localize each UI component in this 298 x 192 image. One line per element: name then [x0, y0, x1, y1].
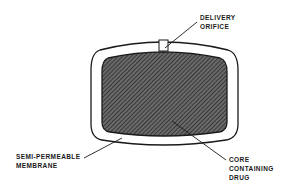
label-line: ORIFICE: [200, 22, 235, 31]
semi-permeable-membrane-label: SEMI-PERMEABLE MEMBRANE: [16, 152, 80, 170]
label-line: MEMBRANE: [16, 161, 80, 170]
label-line: DELIVERY: [200, 13, 235, 22]
core-containing-drug-label: CORE CONTAINING DRUG: [229, 155, 274, 182]
label-line: DRUG: [229, 173, 274, 182]
delivery-orifice-shape: [159, 40, 168, 51]
drug-core-shape: [102, 52, 227, 136]
delivery-orifice-label: DELIVERY ORIFICE: [200, 13, 235, 31]
label-line: CORE: [229, 155, 274, 164]
label-line: SEMI-PERMEABLE: [16, 152, 80, 161]
label-line: CONTAINING: [229, 164, 274, 173]
membrane-leader-line: [84, 138, 122, 158]
